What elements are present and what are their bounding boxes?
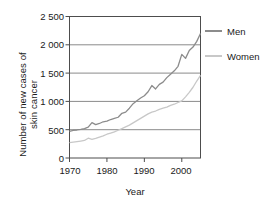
legend-item-men[interactable]: Men	[205, 24, 245, 38]
plot-frame	[70, 17, 201, 159]
series-line-women	[70, 75, 201, 142]
legend-line-women	[205, 55, 222, 57]
legend-line-men	[205, 30, 222, 32]
series-line-men	[70, 33, 201, 131]
legend-label-women: Women	[227, 51, 260, 62]
legend-item-women[interactable]: Women	[205, 49, 260, 63]
skin-cancer-line-chart: Number of new cases of skin cancer 0 500…	[0, 0, 272, 209]
legend-label-men: Men	[227, 26, 245, 37]
data-series	[70, 33, 201, 142]
